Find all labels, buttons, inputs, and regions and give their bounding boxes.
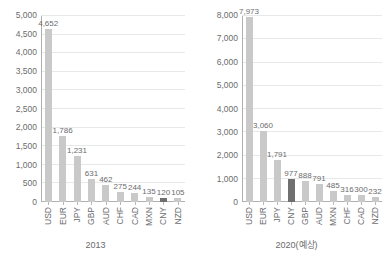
- x-axis-tick-label-gbp: GBP: [301, 207, 310, 225]
- y-axis-tick-label: 4,000: [16, 48, 37, 57]
- bar-slot: 300: [354, 16, 368, 202]
- y-axis-tick-label: 8,000: [217, 11, 238, 20]
- x-axis-tick-label-jpy: JPY: [273, 207, 282, 223]
- x-tick-mark: [319, 202, 320, 205]
- bar-gbp[interactable]: 888: [302, 181, 309, 202]
- bar-slot: 316: [340, 16, 354, 202]
- x-tick-slot: JPY: [270, 202, 284, 232]
- bar-slot: 4,652: [41, 16, 55, 202]
- bar-value-label: 135: [142, 187, 155, 196]
- x-axis-tick-label-mxn: MXN: [145, 207, 154, 226]
- x-tick-mark: [263, 202, 264, 205]
- x-tick-mark: [347, 202, 348, 205]
- x-tick-slot: GBP: [298, 202, 312, 232]
- chart-caption-2013: 2013: [0, 240, 193, 251]
- y-axis-tick-label: 7,000: [217, 34, 238, 43]
- y-axis-tick-label: 1,000: [217, 174, 238, 183]
- bar-value-label: 120: [157, 188, 170, 197]
- x-tick-mark: [361, 202, 362, 205]
- x-tick-mark: [106, 202, 107, 205]
- x-tick-slot: JPY: [70, 202, 84, 232]
- bar-eur[interactable]: 3,060: [260, 131, 267, 202]
- y-axis-tick-label: 2,000: [16, 123, 37, 132]
- y-axis-tick-label: 3,000: [16, 85, 37, 94]
- x-tick-slot: AUD: [99, 202, 113, 232]
- bar-jpy[interactable]: 1,231: [74, 156, 81, 202]
- x-axis-tick-label-nzd: NZD: [371, 207, 380, 224]
- dual-bar-chart-figure: 05001,0001,5002,0002,5003,0003,5004,0004…: [0, 0, 391, 272]
- bar-aud[interactable]: 791: [316, 184, 323, 202]
- bar-slot: 3,060: [256, 16, 270, 202]
- bar-mxn[interactable]: 485: [330, 191, 337, 202]
- x-tick-slot: NZD: [368, 202, 382, 232]
- y-axis-tick-label: 6,000: [217, 57, 238, 66]
- bar-value-label: 244: [128, 183, 141, 192]
- x-axis-tick-label-cad: CAD: [130, 207, 139, 225]
- x-axis-tick-label-usd: USD: [44, 207, 53, 225]
- y-axis-tick-label: 3,500: [16, 67, 37, 76]
- x-tick-slot: CNY: [284, 202, 298, 232]
- plot-area-2013: 05001,0001,5002,0002,5003,0003,5004,0004…: [41, 16, 185, 202]
- x-axis-tick-label-nzd: NZD: [173, 207, 182, 224]
- y-axis-tick-label: 500: [23, 179, 37, 188]
- x-tick-mark: [249, 202, 250, 205]
- bar-value-label: 631: [85, 169, 98, 178]
- bar-slot: 120: [156, 16, 170, 202]
- x-tick-slot: GBP: [84, 202, 98, 232]
- bar-slot: 791: [312, 16, 326, 202]
- y-axis-tick-label: 4,500: [16, 29, 37, 38]
- bar-chf[interactable]: 275: [117, 192, 124, 202]
- x-axis-tick-label-cny: CNY: [287, 207, 296, 225]
- y-axis-tick-label: 0: [32, 198, 37, 207]
- x-axis-tick-label-chf: CHF: [116, 207, 125, 224]
- x-tick-slot: CAD: [354, 202, 368, 232]
- bar-series-2013: 4,6521,7861,231631462275244135120105: [41, 16, 185, 202]
- bar-slot: 631: [84, 16, 98, 202]
- x-axis-tick-label-usd: USD: [245, 207, 254, 225]
- bar-usd[interactable]: 7,973: [246, 17, 253, 202]
- x-tick-slot: EUR: [55, 202, 69, 232]
- bar-jpy[interactable]: 1,791: [274, 160, 281, 202]
- x-tick-mark: [149, 202, 150, 205]
- bar-slot: 1,791: [270, 16, 284, 202]
- bar-value-label: 300: [354, 185, 367, 194]
- x-axis-labels-2013: USDEURJPYGBPAUDCHFCADMXNCNYNZD: [41, 202, 185, 232]
- bar-slot: 977: [284, 16, 298, 202]
- bar-cny[interactable]: 977: [288, 179, 295, 202]
- bar-value-label: 888: [298, 171, 311, 180]
- bar-slot: 105: [171, 16, 185, 202]
- bar-value-label: 232: [368, 187, 381, 196]
- x-axis-tick-label-eur: EUR: [58, 207, 67, 225]
- bar-slot: 1,231: [70, 16, 84, 202]
- plot-area-2020: 01,0002,0003,0004,0005,0006,0007,0008,00…: [242, 16, 382, 202]
- bar-gbp[interactable]: 631: [88, 179, 95, 202]
- y-axis-tick-label: 4,000: [217, 104, 238, 113]
- bar-slot: 888: [298, 16, 312, 202]
- y-axis-tick-label: 0: [233, 198, 238, 207]
- bar-chf[interactable]: 316: [344, 195, 351, 202]
- x-tick-slot: USD: [242, 202, 256, 232]
- x-tick-slot: CNY: [156, 202, 170, 232]
- bar-aud[interactable]: 462: [102, 185, 109, 202]
- x-axis-tick-label-mxn: MXN: [329, 207, 338, 226]
- x-tick-mark: [291, 202, 292, 205]
- bar-usd[interactable]: 4,652: [45, 29, 52, 202]
- bar-eur[interactable]: 1,786: [59, 136, 66, 202]
- x-tick-slot: CHF: [113, 202, 127, 232]
- x-axis-tick-label-eur: EUR: [259, 207, 268, 225]
- x-tick-mark: [163, 202, 164, 205]
- bar-value-label: 485: [326, 181, 339, 190]
- x-tick-slot: EUR: [256, 202, 270, 232]
- x-tick-mark: [91, 202, 92, 205]
- x-axis-tick-label-aud: AUD: [101, 207, 110, 225]
- chart-caption-2020: 2020(예상): [199, 240, 391, 251]
- x-tick-slot: AUD: [312, 202, 326, 232]
- x-tick-mark: [48, 202, 49, 205]
- bar-cad[interactable]: 244: [131, 193, 138, 202]
- y-axis-tick-label: 5,000: [16, 11, 37, 20]
- x-tick-mark: [178, 202, 179, 205]
- bar-cad[interactable]: 300: [358, 195, 365, 202]
- x-tick-mark: [77, 202, 78, 205]
- y-axis-tick-label: 1,000: [16, 160, 37, 169]
- x-axis-tick-label-jpy: JPY: [73, 207, 82, 223]
